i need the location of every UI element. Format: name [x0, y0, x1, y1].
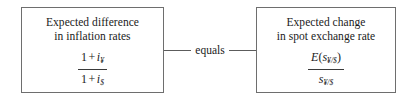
left-formula-denominator: 1+i$	[78, 70, 107, 90]
left-num-subscript: ¥	[100, 56, 104, 65]
diagram-canvas: Expected difference in inflation rates 1…	[0, 0, 415, 100]
left-box-formula: 1+i¥ 1+i$	[78, 50, 107, 89]
left-concept-box: Expected difference in inflation rates 1…	[21, 7, 164, 93]
right-box-caption-line2: in spot exchange rate	[277, 30, 375, 44]
left-den-subscript: $	[100, 77, 104, 86]
right-formula-numerator: E(s¥/$)	[308, 50, 344, 70]
right-box-caption-line1: Expected change	[287, 16, 366, 30]
left-box-caption-line2: in inflation rates	[54, 30, 130, 44]
connector-line-left	[164, 50, 191, 51]
right-num-close-paren: )	[337, 50, 341, 64]
right-formula-denominator: s¥/$	[308, 70, 344, 90]
right-num-subscript: ¥/$	[327, 56, 337, 65]
left-den-plus: +	[87, 72, 97, 86]
connector-line-right	[229, 50, 256, 51]
left-num-plus: +	[87, 50, 97, 64]
right-box-formula: E(s¥/$) s¥/$	[308, 50, 344, 89]
left-formula-numerator: 1+i¥	[78, 50, 107, 70]
connector-label: equals	[191, 44, 228, 57]
equals-connector: equals	[164, 42, 256, 58]
left-box-caption-line1: Expected difference	[46, 16, 139, 30]
right-concept-box: Expected change in spot exchange rate E(…	[256, 7, 396, 93]
right-den-subscript: ¥/$	[323, 77, 333, 86]
